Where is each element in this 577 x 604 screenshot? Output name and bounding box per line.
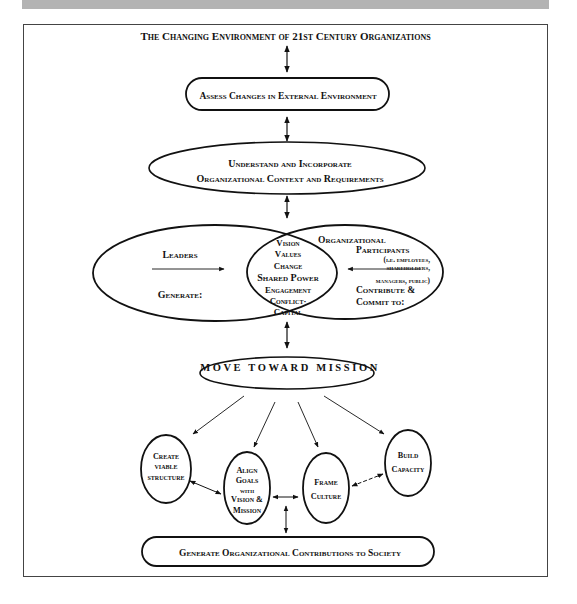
frame-line: Culture [298, 492, 354, 502]
build-line: Capacity [380, 465, 436, 475]
create-label: Create viable structure [138, 452, 194, 483]
core-item: Capital [250, 307, 326, 318]
move-label: Move Toward Mission [190, 362, 390, 373]
core-item: Shared Power [250, 272, 326, 285]
assess-label: Assess Changes in External Environment [190, 92, 386, 102]
create-line: structure [138, 473, 194, 483]
contribute-line-1: Contribute & [356, 284, 436, 296]
core-item: Conflict· [250, 296, 326, 307]
understand-line-1: Understand and Incorporate [150, 157, 430, 172]
leaders-generate-label: Generate: [140, 290, 220, 301]
participants-contribute: Contribute & Commit to: [356, 284, 436, 309]
contribute-line-2: Commit to: [356, 296, 436, 308]
align-line: with [219, 487, 275, 496]
build-line: Build [380, 451, 436, 461]
participants-line-1: Organizational [318, 235, 386, 245]
create-line: Create [138, 452, 194, 462]
core-item: Vision [250, 238, 326, 249]
align-line: Goals [219, 476, 275, 486]
align-label: Align Goals with Vision & Mission [219, 466, 275, 516]
participants-note: shareholders, [318, 264, 430, 272]
align-line: Mission [219, 506, 275, 516]
frame-label: Frame Culture [298, 478, 354, 503]
understand-line-2: Organizational Context and Requirements [150, 172, 430, 187]
diagram-title: The Changing Environment of 21st Century… [23, 31, 548, 43]
core-item: Change [250, 261, 326, 272]
core-values-list: Vision Values Change Shared Power Engage… [250, 238, 326, 318]
build-label: Build Capacity [380, 451, 436, 476]
align-line: Align [219, 466, 275, 476]
core-item: Engagement [250, 285, 326, 296]
align-line: Vision & [219, 495, 275, 505]
frame-line: Frame [298, 478, 354, 488]
participants-label: Organizational Participants (i.e. employ… [318, 236, 438, 285]
leaders-label: Leaders [150, 250, 210, 261]
create-line: viable [138, 462, 194, 472]
generate-contributions-label: Generate Organizational Contributions to… [140, 549, 440, 559]
core-item: Values [250, 249, 326, 260]
understand-label: Understand and Incorporate Organizationa… [150, 157, 430, 186]
